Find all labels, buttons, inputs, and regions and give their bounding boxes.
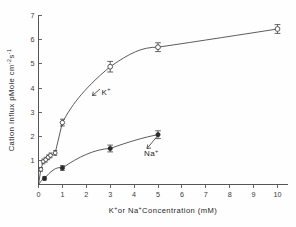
potassium-label-superscript: + (107, 86, 111, 92)
x-tick-label: 10 (274, 190, 282, 199)
x-axis-tick-labels: 0 1 2 3 4 5 6 7 8 9 10 (37, 190, 282, 199)
x-tick-label: 4 (132, 190, 136, 199)
chart-figure: 0 1 2 3 4 5 6 7 8 9 10 1 2 3 4 (0, 0, 296, 227)
y-axis-title: Cation Influx pMole cm-2s-1 (6, 49, 16, 152)
y-axis-title-main: Cation Influx pMole cm (7, 64, 16, 151)
y-tick-label: 3 (31, 108, 35, 117)
x-tick-label: 9 (252, 190, 256, 199)
x-axis-title-or: or Na (118, 206, 139, 215)
y-axis-tick-labels: 1 2 3 4 5 6 7 (31, 11, 35, 166)
y-tick-label: 2 (31, 132, 35, 141)
y-axis-title-sup2: -1 (6, 49, 12, 55)
sodium-series-label: Na+ (144, 148, 159, 158)
x-tick-label: 7 (204, 190, 208, 199)
potassium-series-label: K+ (102, 86, 111, 96)
sodium-label-superscript: + (155, 148, 159, 154)
y-tick-label: 1 (31, 156, 35, 165)
sodium-annotation-arrow (147, 137, 157, 149)
x-tick-label: 8 (228, 190, 232, 199)
x-axis-title-rest: Concentration (mM) (142, 206, 217, 215)
x-tick-label: 3 (108, 190, 112, 199)
x-axis-title: K+or Na+Concentration (mM) (109, 205, 218, 215)
x-tick-label: 1 (60, 190, 64, 199)
series-markers-sodium (42, 133, 160, 181)
y-tick-label: 7 (31, 11, 35, 20)
potassium-annotation-arrow (93, 89, 101, 96)
x-tick-label: 2 (84, 190, 88, 199)
x-axis-ticks (39, 185, 278, 189)
x-tick-label: 0 (37, 190, 41, 199)
y-tick-label: 4 (31, 84, 35, 93)
y-tick-label: 6 (31, 35, 35, 44)
sodium-label-text: Na (144, 149, 155, 158)
series-curve-potassium (39, 29, 278, 185)
y-axis-ticks (39, 15, 43, 161)
chart-plot-area: 0 1 2 3 4 5 6 7 8 9 10 1 2 3 4 (0, 0, 296, 227)
x-tick-label: 6 (180, 190, 184, 199)
x-tick-label: 5 (156, 190, 160, 199)
series-curve-sodium (39, 135, 159, 185)
series-markers-potassium (39, 27, 280, 172)
y-tick-label: 5 (31, 59, 35, 68)
